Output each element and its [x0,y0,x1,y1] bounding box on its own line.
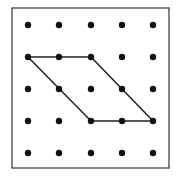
grid-dot [88,86,94,92]
grid-dot [119,54,125,60]
grid-dot [25,150,31,156]
grid-dot [25,86,31,92]
grid-dot [119,86,125,92]
grid-dot [88,118,94,124]
grid-dot [25,54,31,60]
grid-dot [88,54,94,60]
dot-grid-diagram [0,0,178,180]
grid-dot [119,150,125,156]
grid-dot [119,22,125,28]
grid-dot [119,118,125,124]
grid-dot [150,118,156,124]
grid-dot [56,150,62,156]
grid-dot [25,118,31,124]
grid-dot [150,150,156,156]
grid-dot [150,54,156,60]
grid-dot [150,86,156,92]
grid-dot [25,22,31,28]
grid-dot [56,118,62,124]
dot-grid [25,22,156,156]
grid-dot [150,22,156,28]
grid-dot [56,86,62,92]
grid-dot [56,22,62,28]
diagram-canvas [0,0,178,180]
grid-dot [88,150,94,156]
grid-dot [88,22,94,28]
grid-dot [56,54,62,60]
